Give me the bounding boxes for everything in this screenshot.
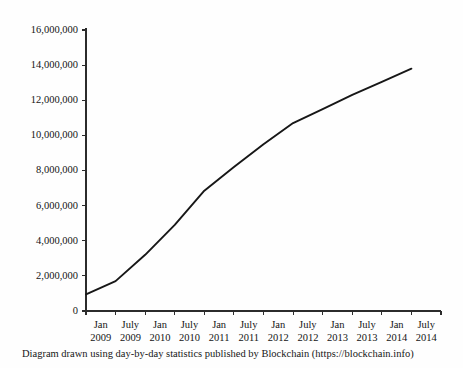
- x-tick-label-month: Jan: [94, 319, 109, 330]
- y-tick-label: 2,000,000: [36, 270, 78, 281]
- x-tick-label-month: Jan: [212, 319, 227, 330]
- line-chart: 02,000,0004,000,0006,000,0008,000,00010,…: [0, 0, 463, 345]
- x-tick-label-year: 2011: [238, 332, 259, 343]
- x-tick-label-year: 2013: [327, 332, 348, 343]
- x-tick-label-year: 2014: [416, 332, 438, 343]
- x-tick-labels: Jan2009July2009Jan2010July2010Jan2011Jul…: [90, 319, 437, 343]
- x-tick-marks: [86, 311, 441, 315]
- y-tick-label: 4,000,000: [36, 235, 78, 246]
- x-tick-label-month: Jan: [153, 319, 168, 330]
- x-axis: Jan2009July2009Jan2010July2010Jan2011Jul…: [86, 311, 441, 343]
- y-tick-labels: 02,000,0004,000,0006,000,0008,000,00010,…: [31, 24, 78, 316]
- x-tick-label-year: 2009: [120, 332, 141, 343]
- x-tick-label-month: Jan: [390, 319, 405, 330]
- y-axis: 02,000,0004,000,0006,000,0008,000,00010,…: [31, 24, 86, 316]
- x-tick-label-month: July: [181, 319, 199, 330]
- x-tick-label-year: 2009: [90, 332, 111, 343]
- y-tick-label: 12,000,000: [31, 94, 78, 105]
- x-tick-label-month: July: [299, 319, 317, 330]
- x-tick-label-year: 2011: [209, 332, 230, 343]
- figure-container: 02,000,0004,000,0006,000,0008,000,00010,…: [0, 0, 463, 368]
- x-tick-label-year: 2013: [357, 332, 378, 343]
- data-series-line: [86, 69, 411, 295]
- y-tick-label: 0: [73, 305, 78, 316]
- y-tick-label: 14,000,000: [31, 59, 78, 70]
- y-tick-marks: [82, 30, 86, 311]
- y-tick-label: 16,000,000: [31, 24, 78, 35]
- y-tick-label: 6,000,000: [36, 200, 78, 211]
- x-tick-label-month: July: [240, 319, 258, 330]
- x-tick-label-month: July: [358, 319, 376, 330]
- x-tick-label-month: Jan: [271, 319, 286, 330]
- figure-caption: Diagram drawn using day-by-day statistic…: [22, 347, 452, 360]
- x-tick-label-year: 2010: [179, 332, 200, 343]
- y-tick-label: 8,000,000: [36, 164, 78, 175]
- x-tick-label-year: 2012: [268, 332, 289, 343]
- x-tick-label-year: 2010: [149, 332, 170, 343]
- x-tick-label-year: 2012: [297, 332, 318, 343]
- y-tick-label: 10,000,000: [31, 129, 78, 140]
- x-tick-label-month: July: [417, 319, 435, 330]
- x-tick-label-month: Jan: [330, 319, 345, 330]
- x-tick-label-month: July: [122, 319, 140, 330]
- x-tick-label-year: 2014: [386, 332, 408, 343]
